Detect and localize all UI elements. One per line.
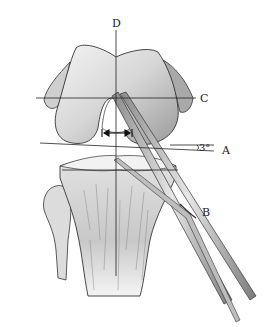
line-a-joint — [40, 143, 214, 151]
label-a: A — [221, 144, 231, 157]
label-d: D — [112, 17, 121, 30]
label-b: B — [202, 206, 210, 219]
knee-diagram: D C A B 3° — [0, 0, 277, 327]
fibula — [44, 185, 71, 280]
label-c: C — [200, 92, 208, 105]
angle-label: 3° — [199, 142, 210, 153]
